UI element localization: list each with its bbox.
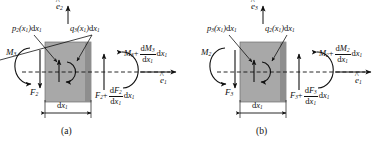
- unit-vector-e3-label: e3: [251, 2, 258, 12]
- load-q-label: q2(x1)dx1: [265, 24, 295, 33]
- moment-right-label: M2+dM2dx1dx1: [319, 44, 362, 64]
- panel-a-graphics: [0, 0, 194, 146]
- dimension-label-dx1: dx1: [252, 101, 263, 110]
- beam-element-figure: e2 e1 p2(x1)dx1 q3(x1)dx1 M3 F2 M3+dM3dx…: [0, 0, 389, 146]
- load-p-label: p3(x1)dx1: [207, 24, 237, 33]
- unit-vector-e2-label: e2: [56, 2, 63, 12]
- panel-a-caption: (a): [61, 126, 72, 136]
- dimension-label-dx1: dx1: [57, 101, 68, 110]
- force-left-label: F2: [30, 88, 38, 98]
- force-left-label: F3: [225, 88, 233, 98]
- moment-right-label: M3+dM3dx1dx1: [124, 44, 167, 64]
- unit-vector-e1-label: e1: [355, 76, 362, 86]
- load-q-label: q3(x1)dx1: [70, 24, 100, 33]
- load-p-label: p2(x1)dx1: [12, 24, 42, 33]
- force-right-label: F3+dF3dx1dx1: [290, 86, 329, 106]
- panel-b: e3 e1 p3(x1)dx1 q2(x1)dx1 M2 F3 M2+dM2dx…: [195, 0, 389, 146]
- moment-left-label: M3: [6, 48, 16, 58]
- panel-b-caption: (b): [256, 126, 267, 136]
- panel-a: e2 e1 p2(x1)dx1 q3(x1)dx1 M3 F2 M3+dM3dx…: [0, 0, 194, 146]
- moment-left-arc: [210, 48, 226, 84]
- panel-b-graphics: [195, 0, 389, 146]
- unit-vector-e1-label: e1: [160, 76, 167, 86]
- force-right-label: F2+dF2dx1dx1: [95, 86, 134, 106]
- moment-left-label: M2: [201, 48, 211, 58]
